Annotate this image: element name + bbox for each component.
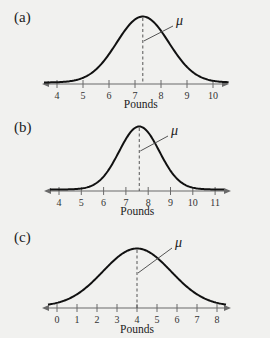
x-tick-label: 5 <box>79 197 84 208</box>
x-tick-label: 6 <box>101 197 106 208</box>
axis-left-arrow-icon <box>44 188 51 194</box>
x-axis-title: Pounds <box>120 323 154 335</box>
axis-right-arrow-icon <box>224 188 231 194</box>
x-axis-title: Pounds <box>124 98 158 110</box>
x-tick-label: 2 <box>95 314 100 325</box>
normal-curves-plot: 45678910Poundsμ4567891011Poundsμ01234567… <box>0 0 270 338</box>
x-tick-label: 8 <box>159 90 164 101</box>
mu-label: μ <box>174 235 182 250</box>
x-tick-label: 6 <box>107 90 112 101</box>
normal-curve <box>44 17 229 83</box>
x-axis-title: Pounds <box>120 205 154 217</box>
axis-left-arrow-icon <box>42 305 49 311</box>
x-tick-label: 0 <box>55 314 60 325</box>
x-tick-label: 9 <box>185 90 190 101</box>
mu-leader-line <box>140 136 168 151</box>
x-tick-label: 9 <box>168 197 173 208</box>
x-tick-label: 3 <box>115 314 120 325</box>
x-tick-label: 1 <box>75 314 80 325</box>
x-tick-label: 8 <box>215 314 220 325</box>
x-tick-label: 4 <box>57 197 62 208</box>
normal-curve <box>50 127 224 190</box>
x-tick-label: 5 <box>81 90 86 101</box>
x-tick-label: 4 <box>55 90 60 101</box>
x-tick-label: 10 <box>208 90 218 101</box>
mu-label: μ <box>170 123 178 138</box>
x-tick-label: 5 <box>155 314 160 325</box>
x-tick-label: 10 <box>188 197 198 208</box>
mu-leader-line <box>138 248 172 273</box>
mu-label: μ <box>175 13 183 28</box>
axis-right-arrow-icon <box>224 305 231 311</box>
x-tick-label: 6 <box>175 314 180 325</box>
x-tick-label: 11 <box>210 197 220 208</box>
x-tick-label: 7 <box>195 314 200 325</box>
